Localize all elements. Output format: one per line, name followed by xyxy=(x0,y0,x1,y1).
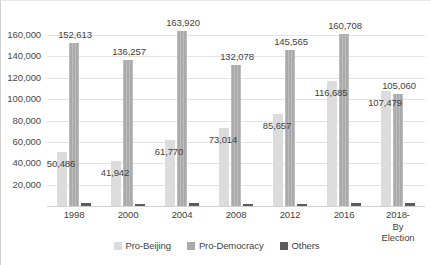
data-label: 61,770 xyxy=(155,147,183,157)
legend-label: Pro-Beijing xyxy=(126,241,171,251)
bar-pro-democracy[interactable] xyxy=(177,31,187,206)
data-label: 160,708 xyxy=(328,21,362,31)
bar-others[interactable] xyxy=(243,204,253,206)
legend-swatch-icon xyxy=(187,242,195,250)
data-label: 41,942 xyxy=(101,168,129,178)
y-axis-tick-label: 160,000 xyxy=(7,30,41,40)
bar-group xyxy=(57,19,91,206)
x-axis-tick-label: 2004 xyxy=(172,209,193,221)
data-label: 163,920 xyxy=(166,18,200,28)
data-label: 145,565 xyxy=(274,37,308,47)
bar-others[interactable] xyxy=(297,204,307,206)
data-label: 136,257 xyxy=(112,47,146,57)
bar-others[interactable] xyxy=(405,203,415,206)
y-axis-tick-label: 140,000 xyxy=(7,52,41,62)
bar-group xyxy=(165,19,199,206)
bar-chart: 20,00040,00060,00080,000100,000120,00014… xyxy=(0,0,431,265)
bar-others[interactable] xyxy=(351,203,361,206)
bar-pro-democracy[interactable] xyxy=(393,94,403,206)
legend-swatch-icon xyxy=(114,242,122,250)
y-axis-tick-label: 100,000 xyxy=(7,94,41,104)
legend-swatch-icon xyxy=(280,242,288,250)
x-axis-tick-label: 2018-By Election xyxy=(382,209,415,244)
y-axis-tick-label: 40,000 xyxy=(13,159,41,169)
y-axis-tick-label: 120,000 xyxy=(7,73,41,83)
bar-group-bars xyxy=(381,19,415,206)
x-axis-tick-label: 1998 xyxy=(64,209,85,221)
chart-legend: Pro-BeijingPro-DemocracyOthers xyxy=(1,241,431,251)
y-axis-tick-label: 60,000 xyxy=(13,137,41,147)
data-label: 116,685 xyxy=(315,88,348,98)
legend-label: Pro-Democracy xyxy=(199,241,264,251)
x-axis-tick-label: 2012 xyxy=(280,209,301,221)
bar-pro-beijing[interactable] xyxy=(381,91,391,206)
bar-pro-democracy[interactable] xyxy=(69,43,79,206)
data-label: 152,613 xyxy=(58,30,92,40)
axis-baseline xyxy=(47,206,425,207)
x-axis-tick-label: 2000 xyxy=(118,209,139,221)
bar-pro-democracy[interactable] xyxy=(339,34,349,206)
legend-item-pro-beijing[interactable]: Pro-Beijing xyxy=(114,241,171,251)
y-axis: 20,00040,00060,00080,000100,000120,00014… xyxy=(1,1,47,265)
data-label: 132,078 xyxy=(220,52,254,62)
data-label: 73,014 xyxy=(209,135,237,145)
bar-others[interactable] xyxy=(135,204,145,206)
bar-others[interactable] xyxy=(81,203,91,206)
bar-pro-democracy[interactable] xyxy=(123,60,133,206)
legend-label: Others xyxy=(292,241,320,251)
data-label: 107,479 xyxy=(368,98,402,108)
bar-group xyxy=(381,19,415,206)
y-axis-tick-label: 20,000 xyxy=(13,180,41,190)
bar-group-bars xyxy=(327,19,361,206)
legend-item-pro-democracy[interactable]: Pro-Democracy xyxy=(187,241,264,251)
bar-group-bars xyxy=(57,19,91,206)
legend-item-others[interactable]: Others xyxy=(280,241,320,251)
data-label: 85,657 xyxy=(263,121,291,131)
bar-group xyxy=(219,19,253,206)
x-axis-tick-label: 2008 xyxy=(226,209,247,221)
plot-area: 50,486152,61341,942136,25761,770163,9207… xyxy=(47,19,425,206)
bar-others[interactable] xyxy=(189,203,199,206)
bar-group-bars xyxy=(219,19,253,206)
bar-pro-beijing[interactable] xyxy=(327,81,337,206)
bar-group xyxy=(327,19,361,206)
y-axis-tick-label: 80,000 xyxy=(13,116,41,126)
bar-group-bars xyxy=(165,19,199,206)
x-axis-tick-label: 2016 xyxy=(334,209,355,221)
data-label: 50,486 xyxy=(47,159,75,169)
data-label: 105,060 xyxy=(382,81,416,91)
